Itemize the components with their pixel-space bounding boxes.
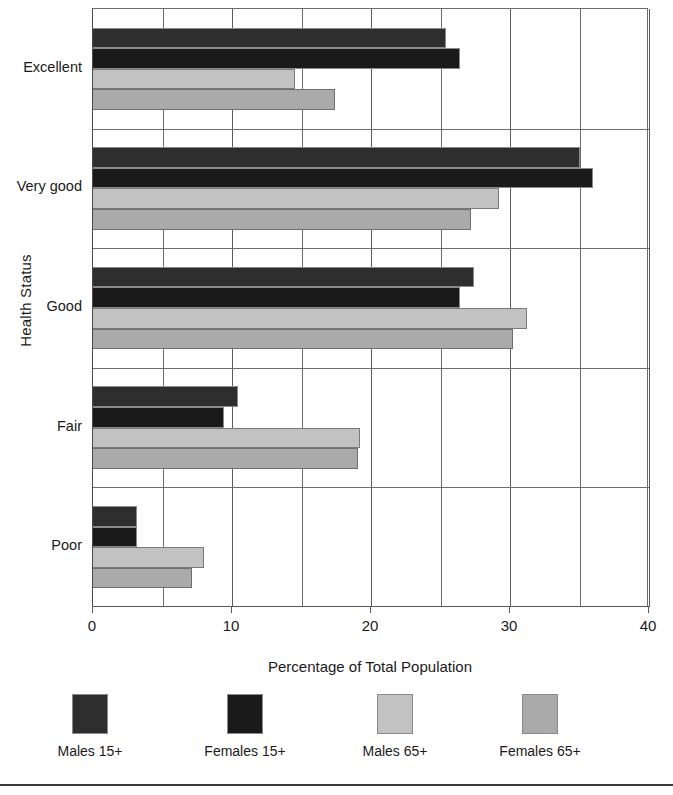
bar — [93, 308, 527, 329]
bar — [93, 69, 295, 90]
bar — [93, 267, 474, 288]
category-separator — [93, 487, 649, 488]
gridline-35 — [580, 9, 581, 607]
x-axis-tick-label: 10 — [201, 617, 261, 634]
category-separator — [93, 129, 649, 130]
category-separator — [93, 368, 649, 369]
legend-label: Males 15+ — [15, 743, 165, 759]
x-axis-title: Percentage of Total Population — [92, 658, 648, 675]
legend-item: Females 65+ — [465, 694, 615, 759]
bar — [93, 287, 460, 308]
category-label-excellent: Excellent — [0, 59, 82, 75]
bar — [93, 188, 499, 209]
bar — [93, 386, 238, 407]
x-axis-tick-label: 30 — [479, 617, 539, 634]
gridline-40 — [649, 9, 650, 607]
category-label-fair: Fair — [0, 418, 82, 434]
legend-swatch — [72, 694, 108, 734]
bar — [93, 209, 471, 230]
bar — [93, 147, 580, 168]
x-axis-tick — [648, 606, 649, 613]
bar — [93, 547, 204, 568]
legend-item: Males 15+ — [15, 694, 165, 759]
bottom-divider — [0, 784, 673, 786]
bar — [93, 568, 192, 589]
category-label-very-good: Very good — [0, 178, 82, 194]
x-axis-tick-label: 40 — [618, 617, 673, 634]
plot-area — [92, 8, 648, 606]
x-axis-tick — [370, 606, 371, 613]
chart-legend: Males 15+Females 15+Males 65+Females 65+ — [0, 694, 673, 764]
category-label-good: Good — [0, 298, 82, 314]
x-axis-tick — [92, 606, 93, 613]
bar — [93, 448, 358, 469]
x-axis-tick — [231, 606, 232, 613]
legend-label: Males 65+ — [320, 743, 470, 759]
bar — [93, 168, 593, 189]
x-axis-tick-label: 0 — [62, 617, 122, 634]
legend-item: Females 15+ — [170, 694, 320, 759]
bar — [93, 48, 460, 69]
legend-label: Females 65+ — [465, 743, 615, 759]
bar-chart-figure: Health Status 010203040 ExcellentVery go… — [0, 0, 673, 795]
legend-item: Males 65+ — [320, 694, 470, 759]
legend-swatch — [227, 694, 263, 734]
bar — [93, 407, 224, 428]
x-axis-tick-label: 20 — [340, 617, 400, 634]
bar — [93, 28, 446, 49]
category-separator — [93, 248, 649, 249]
legend-label: Females 15+ — [170, 743, 320, 759]
legend-swatch — [377, 694, 413, 734]
x-axis-tick — [509, 606, 510, 613]
category-label-poor: Poor — [0, 537, 82, 553]
bar — [93, 506, 137, 527]
bar — [93, 329, 513, 350]
bar — [93, 527, 137, 548]
bar — [93, 428, 360, 449]
legend-swatch — [522, 694, 558, 734]
bar — [93, 89, 335, 110]
